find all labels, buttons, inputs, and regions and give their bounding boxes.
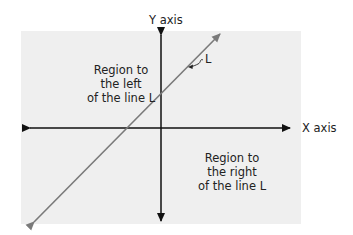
right-region-line-2: the right [177, 165, 287, 179]
left-region-line-3: of the line L [66, 91, 176, 105]
left-region-line-2: the left [66, 77, 176, 91]
right-region-line-1: Region to [177, 151, 287, 165]
left-region-label: Region to the left of the line L [66, 63, 176, 105]
left-region-line-1: Region to [66, 63, 176, 77]
axes-and-line [0, 0, 353, 235]
right-region-label: Region to the right of the line L [177, 151, 287, 193]
line-L-label: L [205, 52, 211, 66]
y-axis-label: Y axis [149, 13, 183, 27]
x-axis-label: X axis [302, 121, 337, 135]
right-region-line-3: of the line L [177, 179, 287, 193]
diagram-canvas: Y axis X axis L Region to the left of th… [0, 0, 353, 235]
